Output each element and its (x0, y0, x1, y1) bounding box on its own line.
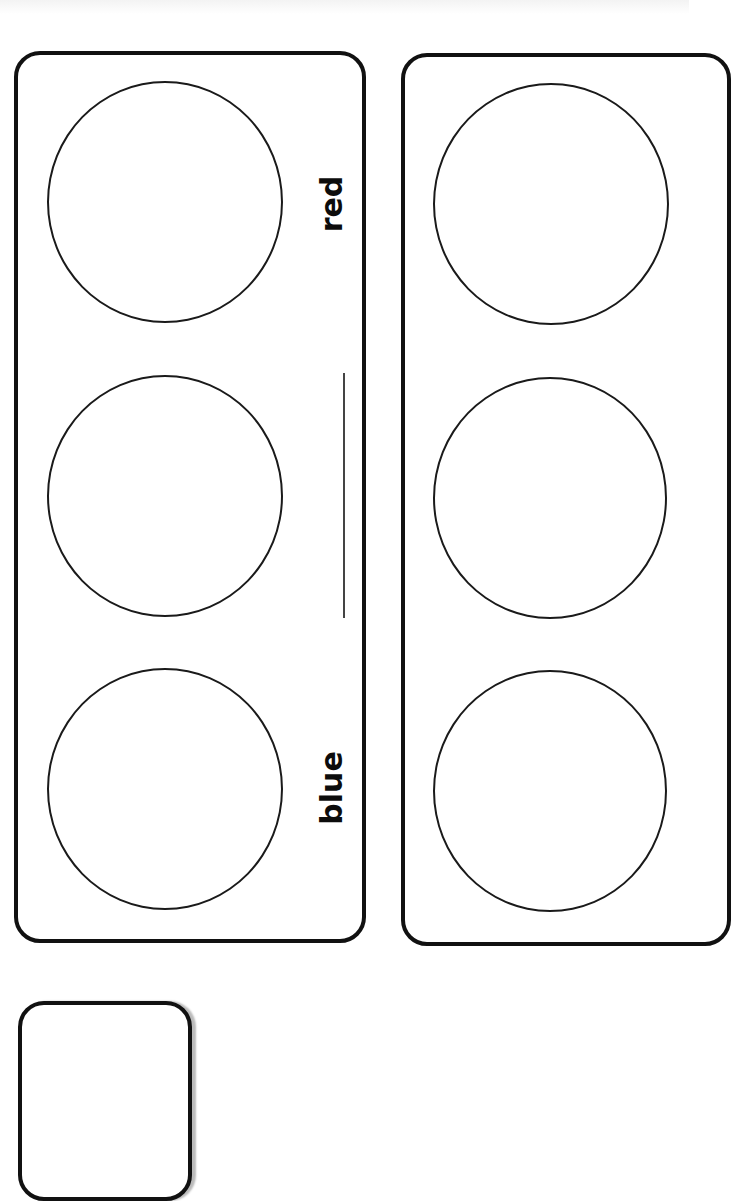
circle-middle (47, 375, 283, 617)
color-label-blue: blue (314, 743, 350, 833)
answer-line[interactable] (343, 373, 345, 618)
circle-middle (433, 377, 667, 619)
circle-bottom (433, 670, 667, 912)
circle-top (433, 83, 669, 325)
color-label-red: red (314, 169, 350, 239)
circle-bottom (47, 668, 283, 910)
page-edge-shade (0, 0, 689, 14)
circle-top (47, 81, 283, 323)
mixing-card-3 (18, 1001, 192, 1201)
